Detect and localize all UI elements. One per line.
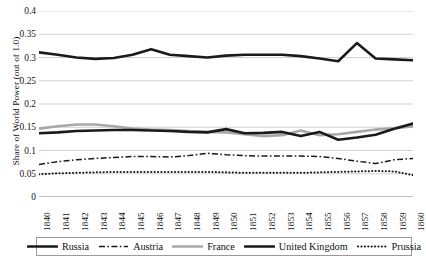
legend-swatch-austria-icon — [98, 242, 129, 251]
legend-swatch-france-icon — [172, 242, 203, 251]
y-tick-label: 0.05 — [2, 169, 36, 179]
legend-item-france[interactable]: France — [172, 241, 235, 252]
plot-area — [39, 11, 413, 197]
x-tick-label: 1860 — [416, 212, 426, 231]
y-tick-label: 0 — [2, 192, 36, 202]
x-tick-label: 1857 — [360, 212, 370, 231]
y-tick-label: 0.1 — [2, 146, 36, 156]
x-tick-label: 1844 — [117, 212, 127, 231]
y-axis-tick-labels: 0.40.350.30.250.20.150.10.050 — [0, 0, 36, 262]
legend-label: Prussia — [392, 241, 421, 252]
y-tick-label: 0.4 — [2, 6, 36, 16]
y-tick-label: 0.15 — [2, 122, 36, 132]
x-tick-label: 1852 — [267, 212, 277, 231]
x-tick-label: 1840 — [42, 212, 52, 231]
y-tick-label: 0.25 — [2, 76, 36, 86]
legend-swatch-prussia-icon — [357, 242, 388, 251]
legend-label: Austria — [133, 241, 163, 252]
x-axis-tick-labels: 1840184118421843184418451846184718481849… — [39, 198, 413, 234]
legend-swatch-russia-icon — [27, 242, 58, 251]
series-line-united-kingdom — [39, 43, 413, 61]
series-line-austria — [39, 153, 413, 164]
legend-label: France — [207, 241, 235, 252]
x-tick-label: 1847 — [173, 212, 183, 231]
legend-item-united-kingdom[interactable]: United Kingdom — [244, 241, 348, 252]
x-tick-label: 1843 — [99, 212, 109, 231]
x-tick-label: 1850 — [229, 212, 239, 231]
x-tick-label: 1853 — [286, 212, 296, 231]
x-tick-label: 1841 — [61, 212, 71, 231]
legend-item-austria[interactable]: Austria — [98, 241, 163, 252]
x-tick-label: 1856 — [342, 212, 352, 231]
x-tick-label: 1845 — [136, 212, 146, 231]
x-tick-label: 1849 — [211, 212, 221, 231]
legend-label: United Kingdom — [279, 241, 348, 252]
chart-legend: RussiaAustriaFranceUnited KingdomPrussia — [36, 237, 412, 256]
legend-item-russia[interactable]: Russia — [27, 241, 89, 252]
series-line-prussia — [39, 171, 413, 175]
x-tick-label: 1855 — [323, 212, 333, 231]
x-tick-label: 1851 — [248, 212, 258, 231]
x-tick-label: 1848 — [192, 212, 202, 231]
x-tick-label: 1842 — [80, 212, 90, 231]
x-tick-label: 1858 — [379, 212, 389, 231]
y-tick-label: 0.35 — [2, 29, 36, 39]
y-tick-label: 0.3 — [2, 53, 36, 63]
x-tick-label: 1854 — [304, 212, 314, 231]
y-tick-label: 0.2 — [2, 99, 36, 109]
series-canvas — [39, 11, 413, 197]
x-tick-label: 1846 — [155, 212, 165, 231]
x-tick-label: 1859 — [398, 212, 408, 231]
legend-label: Russia — [62, 241, 89, 252]
legend-swatch-united-kingdom-icon — [244, 242, 275, 251]
legend-item-prussia[interactable]: Prussia — [357, 241, 421, 252]
